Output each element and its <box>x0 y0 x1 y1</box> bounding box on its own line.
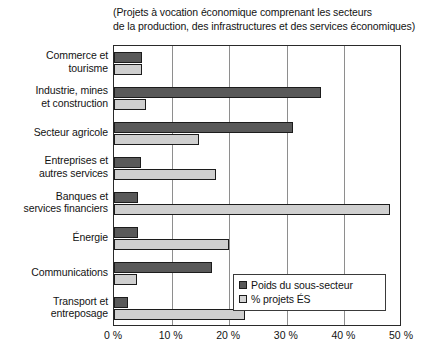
economic-sector-bar-chart: (Projets à vocation économique comprenan… <box>0 0 434 361</box>
bar-poids <box>114 87 321 98</box>
bar-poids <box>114 52 142 63</box>
bar-poids <box>114 297 128 308</box>
y-axis-label-line: Banques et <box>0 190 108 203</box>
y-axis-label-2: Secteur agricole <box>0 126 108 139</box>
x-axis-tick-30: 30 % <box>266 329 306 341</box>
bar-poids <box>114 262 212 273</box>
legend-label: % projets ÉS <box>251 293 311 305</box>
y-axis-label-line: Communications <box>0 266 108 279</box>
bar-projets <box>114 134 199 145</box>
bar-group <box>114 187 400 222</box>
bar-poids <box>114 122 293 133</box>
y-axis-label-line: Industrie, mines <box>0 84 108 97</box>
legend-label: Poids du sous-secteur <box>251 279 353 291</box>
y-axis-label-6: Communications <box>0 266 108 279</box>
y-axis-label-line: Commerce et <box>0 49 108 62</box>
y-axis-label-line: autres services <box>0 167 108 180</box>
y-axis-label-line: Transport et <box>0 295 108 308</box>
bar-projets <box>114 274 137 285</box>
bar-group <box>114 81 400 116</box>
x-axis-tick-0: 0 % <box>93 329 133 341</box>
y-axis-label-line: Secteur agricole <box>0 126 108 139</box>
bar-poids <box>114 227 138 238</box>
y-axis-label-3: Entreprises etautres services <box>0 154 108 179</box>
bar-projets <box>114 309 245 320</box>
y-axis-label-line: entreposage <box>0 307 108 320</box>
bar-group <box>114 222 400 257</box>
y-axis-label-5: Énergie <box>0 231 108 244</box>
y-axis-label-7: Transport etentreposage <box>0 295 108 320</box>
y-axis-label-line: tourisme <box>0 62 108 75</box>
bar-poids <box>114 192 138 203</box>
x-axis-tick-50: 50 % <box>381 329 421 341</box>
dark-swatch-icon <box>239 281 247 289</box>
x-axis-tick-40: 40 % <box>323 329 363 341</box>
bar-projets <box>114 64 142 75</box>
y-axis-label-line: Énergie <box>0 231 108 244</box>
y-axis-label-line: Entreprises et <box>0 154 108 167</box>
x-axis-tick-labels: 0 %10 %20 %30 %40 %50 % <box>0 329 434 349</box>
y-axis-label-4: Banques etservices financiers <box>0 190 108 215</box>
y-axis-label-line: et construction <box>0 97 108 110</box>
y-axis-labels: Commerce ettourismeIndustrie, mineset co… <box>0 45 108 326</box>
x-axis-tick-20: 20 % <box>208 329 248 341</box>
chart-subtitle-line-1: (Projets à vocation économique comprenan… <box>113 6 425 20</box>
bar-projets <box>114 169 216 180</box>
bar-projets <box>114 204 390 215</box>
x-axis-tick-10: 10 % <box>151 329 191 341</box>
legend-item-1: % projets ÉS <box>239 292 380 306</box>
chart-legend: Poids du sous-secteur% projets ÉS <box>233 274 386 311</box>
legend-item-0: Poids du sous-secteur <box>239 278 380 292</box>
y-axis-label-line: services financiers <box>0 202 108 215</box>
chart-subtitle: (Projets à vocation économique comprenan… <box>113 6 425 33</box>
light-swatch-icon <box>239 295 247 303</box>
bar-group <box>114 116 400 151</box>
bar-projets <box>114 239 229 250</box>
bar-poids <box>114 157 141 168</box>
bar-group <box>114 46 400 81</box>
bar-group <box>114 151 400 186</box>
bar-projets <box>114 99 146 110</box>
y-axis-label-0: Commerce ettourisme <box>0 49 108 74</box>
chart-subtitle-line-2: de la production, des infrastructures et… <box>113 20 425 34</box>
y-axis-label-1: Industrie, mineset construction <box>0 84 108 109</box>
